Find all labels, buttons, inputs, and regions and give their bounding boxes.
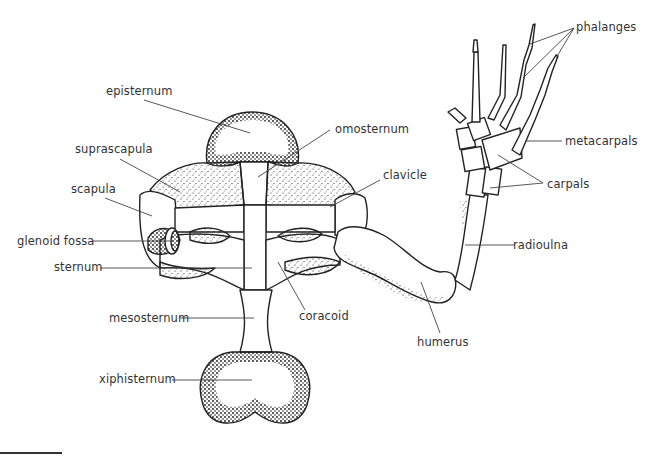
label-omosternum: omosternum: [335, 122, 409, 136]
label-metacarpals: metacarpals: [565, 134, 638, 148]
label-sternum: sternum: [54, 260, 103, 274]
mesosternum-bone: [240, 290, 272, 352]
label-humerus: humerus: [417, 335, 469, 349]
label-coracoid: coracoid: [299, 309, 349, 323]
label-suprascapula: suprascapula: [75, 142, 153, 156]
label-carpals: carpals: [547, 177, 589, 191]
label-glenoid-fossa: glenoid fossa: [17, 234, 94, 248]
carpals-group: [456, 117, 522, 197]
label-scapula: scapula: [71, 182, 116, 196]
label-xiphisternum: xiphisternum: [99, 372, 176, 386]
label-phalanges: phalanges: [576, 20, 636, 34]
xiphisternum-bone: [200, 352, 309, 423]
episternum-bone: [206, 112, 298, 166]
sternum-bone: [244, 205, 266, 290]
omosternum-bone: [240, 162, 268, 205]
label-mesosternum: mesosternum: [109, 311, 189, 325]
pectoral-girdle-diagram: [0, 0, 647, 456]
label-radioulna: radioulna: [513, 238, 568, 252]
label-clavicle: clavicle: [383, 168, 427, 182]
scale-bar: [0, 452, 62, 454]
radioulna-bone: [455, 195, 488, 290]
label-episternum: episternum: [106, 84, 172, 98]
